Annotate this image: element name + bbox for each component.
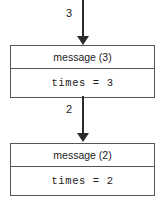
arrow-node-1-to-node-2 xyxy=(76,96,90,144)
arrow-head-icon xyxy=(77,133,89,142)
node-2-header: message (2) xyxy=(11,144,154,167)
node-2-body: times = 2 xyxy=(11,167,154,195)
edge-label-incoming: 3 xyxy=(58,7,72,19)
arrow-shaft xyxy=(82,0,84,37)
diagram-canvas: 3 message (3) times = 3 2 message (2) ti… xyxy=(0,0,163,204)
node-1-header: message (3) xyxy=(11,46,154,69)
arrow-into-node-1 xyxy=(76,0,90,46)
node-1-body: times = 3 xyxy=(11,69,154,97)
arrow-shaft xyxy=(82,96,84,134)
edge-label-node-1-to-node-2: 2 xyxy=(58,103,72,115)
node-message-2: message (2) times = 2 xyxy=(10,143,155,196)
arrow-head-icon xyxy=(77,36,89,45)
node-message-3: message (3) times = 3 xyxy=(10,45,155,98)
